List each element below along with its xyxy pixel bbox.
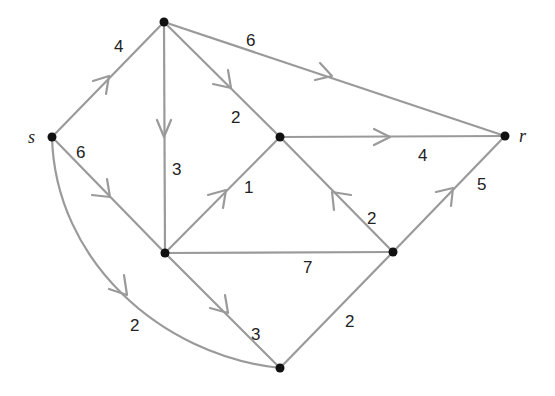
- node-s: [48, 133, 57, 142]
- weight-b-d: 7: [303, 258, 312, 277]
- edge-s-b: [52, 137, 165, 253]
- edge-b-d: [165, 252, 393, 253]
- weight-a-r: 6: [246, 31, 255, 50]
- node-a: [160, 18, 169, 27]
- edge-a-r: [164, 22, 505, 136]
- node-c: [276, 133, 285, 142]
- weight-e-d: 2: [345, 312, 354, 331]
- node-d: [389, 248, 398, 257]
- node-label-r: r: [519, 126, 527, 146]
- edge-b-c: [165, 137, 280, 253]
- edge-d-r: [393, 136, 505, 252]
- weight-d-c: 2: [367, 209, 376, 228]
- weight-s-b: 6: [76, 143, 85, 162]
- weight-a-c: 2: [231, 108, 240, 127]
- node-b: [161, 249, 170, 258]
- graph-diagram: s r 4 6 2 6 2 3 1 3 7 4 2 5 2: [0, 0, 555, 396]
- node-r: [501, 132, 510, 141]
- weight-b-c: 1: [244, 178, 253, 197]
- arrow-icon-a-r: [315, 63, 332, 80]
- edge-e-d: [280, 252, 393, 368]
- edge-d-c: [280, 137, 393, 252]
- node-label-s: s: [28, 127, 35, 147]
- weight-c-r: 4: [418, 146, 427, 165]
- arrow-icon-s-e: [109, 275, 127, 295]
- weight-a-b: 3: [172, 160, 181, 179]
- weight-s-a: 4: [114, 37, 123, 56]
- weight-b-e: 3: [251, 325, 260, 344]
- node-e: [276, 364, 285, 373]
- edge-a-c: [164, 22, 280, 137]
- edge-c-r: [280, 136, 505, 137]
- weight-d-r: 5: [477, 175, 486, 194]
- weight-s-e: 2: [130, 316, 139, 335]
- arrow-icon-b-e: [210, 295, 228, 313]
